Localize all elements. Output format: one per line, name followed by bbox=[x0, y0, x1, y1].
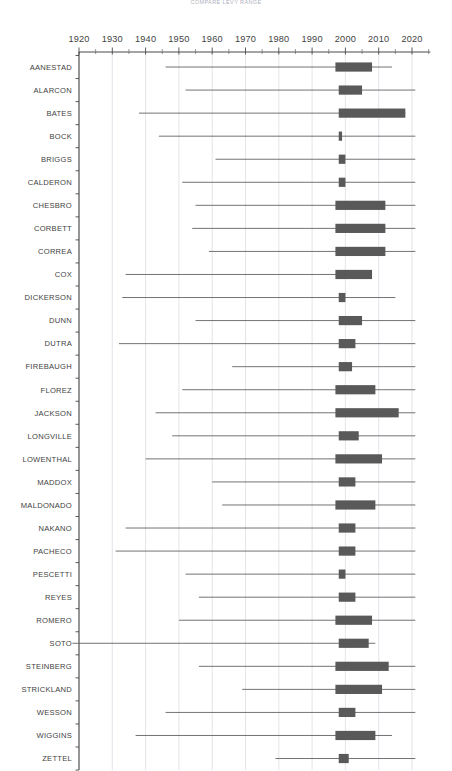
x-tick-label: 1980 bbox=[268, 34, 289, 44]
x-tick-label: 2020 bbox=[401, 34, 422, 44]
chart-plot-area: 1920193019401950196019701980199020002010… bbox=[0, 0, 452, 771]
range-bar bbox=[335, 385, 375, 394]
category-label: BRIGGS bbox=[41, 155, 72, 164]
range-bar bbox=[335, 247, 385, 256]
range-bar bbox=[339, 639, 369, 648]
category-label: FLOREZ bbox=[41, 386, 73, 395]
range-bar bbox=[335, 408, 398, 417]
chart-container: COMPARE LEVY RANGE 192019301940195019601… bbox=[0, 0, 452, 771]
x-tick-label: 1950 bbox=[168, 34, 189, 44]
range-bar bbox=[335, 454, 382, 463]
category-label: STRICKLAND bbox=[21, 685, 72, 694]
category-label: SOTO bbox=[50, 639, 72, 648]
range-bar bbox=[339, 593, 356, 602]
range-bar bbox=[335, 616, 372, 625]
x-tick-label: 1930 bbox=[102, 34, 123, 44]
data-series bbox=[72, 62, 415, 763]
category-label: LOWENTHAL bbox=[22, 455, 72, 464]
category-label: LONGVILLE bbox=[28, 432, 72, 441]
category-label: CHESBRO bbox=[33, 201, 72, 210]
x-axis-tick-labels: 1920193019401950196019701980199020002010… bbox=[68, 34, 422, 44]
x-tick-label: 2000 bbox=[335, 34, 356, 44]
range-bar bbox=[335, 201, 385, 210]
category-label: PESCETTI bbox=[33, 570, 72, 579]
range-bar bbox=[339, 155, 346, 164]
y-axis-category-labels: AANESTADALARCONBATESBOCKBRIGGSCALDERONCH… bbox=[21, 63, 73, 764]
range-bar bbox=[339, 293, 346, 302]
x-tick-label: 1920 bbox=[68, 34, 89, 44]
x-tick-label: 1940 bbox=[135, 34, 156, 44]
category-label: FIREBAUGH bbox=[25, 362, 72, 371]
category-label: CALDERON bbox=[28, 178, 72, 187]
category-label: DICKERSON bbox=[25, 293, 72, 302]
range-bar bbox=[339, 316, 362, 325]
category-label: WESSON bbox=[37, 708, 72, 717]
category-label: ALARCON bbox=[34, 86, 72, 95]
range-bar bbox=[339, 708, 356, 717]
category-label: MADDOX bbox=[37, 478, 72, 487]
range-bar bbox=[339, 132, 342, 141]
range-bar bbox=[339, 85, 362, 94]
category-label: PACHECO bbox=[33, 547, 72, 556]
range-bar bbox=[339, 431, 359, 440]
range-bar bbox=[335, 224, 385, 233]
category-label: BATES bbox=[46, 109, 72, 118]
category-label: NAKANO bbox=[38, 524, 72, 533]
category-label: CORBETT bbox=[34, 224, 72, 233]
range-bar bbox=[335, 685, 382, 694]
range-bar bbox=[339, 570, 346, 579]
category-label: REYES bbox=[45, 593, 72, 602]
category-label: DUTRA bbox=[45, 339, 73, 348]
range-bar bbox=[335, 662, 388, 671]
range-bar bbox=[339, 339, 356, 348]
category-label: CORREA bbox=[38, 247, 73, 256]
range-bar bbox=[335, 62, 372, 71]
category-label: DUNN bbox=[49, 316, 72, 325]
category-label: ROMERO bbox=[36, 616, 72, 625]
category-label: STEINBERG bbox=[26, 662, 72, 671]
category-label: AANESTAD bbox=[30, 63, 73, 72]
range-bar bbox=[335, 731, 375, 740]
range-bar bbox=[335, 500, 375, 509]
range-bar bbox=[339, 523, 356, 532]
category-label: ZETTEL bbox=[42, 754, 72, 763]
range-bar bbox=[339, 178, 346, 187]
category-label: COX bbox=[55, 270, 72, 279]
range-bar bbox=[335, 270, 372, 279]
range-bar bbox=[339, 754, 349, 763]
category-label: MALDONADO bbox=[21, 501, 72, 510]
range-bar bbox=[339, 477, 356, 486]
range-bar bbox=[339, 546, 356, 555]
category-label: JACKSON bbox=[34, 409, 72, 418]
x-tick-label: 1990 bbox=[301, 34, 322, 44]
category-label: WIGGINS bbox=[37, 731, 73, 740]
x-tick-label: 2010 bbox=[368, 34, 389, 44]
category-label: BOCK bbox=[49, 132, 72, 141]
range-bar bbox=[339, 362, 352, 371]
x-tick-label: 1970 bbox=[235, 34, 256, 44]
range-bar bbox=[339, 109, 406, 118]
x-tick-label: 1960 bbox=[202, 34, 223, 44]
